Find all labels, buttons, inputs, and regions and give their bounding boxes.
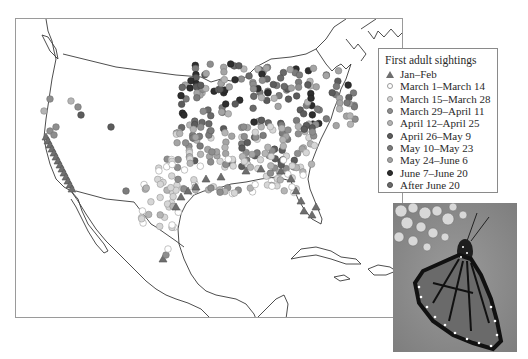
legend-title: First adult sightings	[385, 53, 497, 67]
legend-item: April 26–May 9	[385, 129, 497, 141]
legend-item-label: March 15–March 28	[400, 93, 490, 105]
legend-item-label: Jan–Feb	[400, 68, 437, 80]
circle-marker-icon	[385, 180, 395, 190]
circle-marker-icon	[385, 143, 395, 153]
map-outline	[16, 19, 403, 318]
legend-item: March 1–March 14	[385, 80, 497, 92]
legend-item: May 10–May 23	[385, 142, 497, 154]
legend-item: After June 20	[385, 179, 497, 191]
legend-item-label: March 29–April 11	[400, 105, 485, 117]
legend-item: March 29–April 11	[385, 105, 497, 117]
legend-item-label: June 7–June 20	[400, 167, 468, 179]
circle-marker-icon	[385, 168, 395, 178]
legend-item: April 12–April 25	[385, 117, 497, 129]
legend-item: Jan–Feb	[385, 68, 497, 80]
legend-item-label: May 24–June 6	[400, 154, 468, 166]
legend-item: March 15–March 28	[385, 93, 497, 105]
monarch-butterfly-photo	[393, 203, 517, 352]
circle-marker-icon	[385, 131, 395, 141]
circle-marker-icon	[385, 81, 395, 91]
circle-marker-icon	[385, 118, 395, 128]
legend-item: June 7–June 20	[385, 166, 497, 178]
triangle-marker-icon	[385, 69, 395, 79]
legend-item-label: March 1–March 14	[400, 80, 485, 92]
legend-item-label: April 26–May 9	[400, 130, 471, 142]
legend-item: May 24–June 6	[385, 154, 497, 166]
circle-marker-icon	[385, 106, 395, 116]
circle-marker-icon	[385, 94, 395, 104]
sightings-map	[15, 18, 403, 318]
legend: First adult sightings Jan–FebMarch 1–Mar…	[378, 48, 498, 193]
circle-marker-icon	[385, 155, 395, 165]
legend-item-label: After June 20	[400, 179, 460, 191]
legend-item-label: April 12–April 25	[400, 117, 479, 129]
butterfly-image	[393, 203, 517, 352]
legend-item-label: May 10–May 23	[400, 142, 473, 154]
